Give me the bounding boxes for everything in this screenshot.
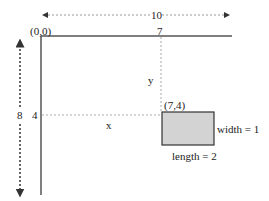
- y-tick-label: 4: [32, 110, 38, 121]
- x-dim-label: x: [106, 120, 112, 131]
- y-dim-label: y: [148, 75, 154, 86]
- rect-width-label: width = 1: [217, 124, 259, 135]
- origin-label: (0,0): [30, 26, 51, 37]
- total-height-label: 8: [17, 110, 23, 121]
- rect-length-label: length = 2: [172, 151, 217, 162]
- x-tick-label: 7: [157, 26, 163, 37]
- total-width-label: 10: [151, 10, 162, 21]
- rectangle: [162, 112, 214, 145]
- point-label: (7,4): [164, 100, 185, 111]
